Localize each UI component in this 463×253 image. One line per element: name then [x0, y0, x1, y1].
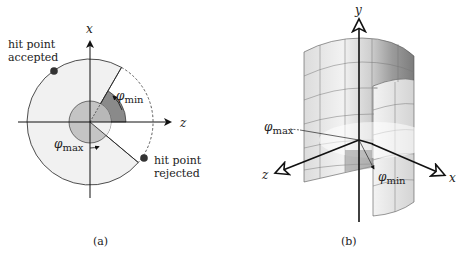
phi-min-label: φmin [116, 89, 144, 105]
caption-a: (a) [93, 235, 108, 248]
phi-plane-slice [319, 122, 431, 158]
diagram-canvas: x z φmin φmax hit pointaccepted hit poin… [0, 0, 463, 253]
rejected-label: hit pointrejected [154, 154, 202, 180]
x-axis-label: x [86, 22, 93, 36]
hit-point-rejected [140, 154, 148, 162]
hit-point-accepted [50, 67, 58, 75]
rejected-arc [122, 67, 154, 162]
phi-max-label-b: φmax [264, 120, 294, 136]
y-axis-label-b: y [354, 3, 362, 17]
figure-b: y z x φmax φmin (b) [261, 3, 456, 248]
x-axis-label-b: x [449, 171, 456, 185]
figure-a: x z φmin φmax hit pointaccepted hit poin… [8, 22, 202, 248]
accepted-label: hit pointaccepted [8, 38, 58, 64]
caption-b: (b) [341, 235, 357, 248]
z-axis-label: z [179, 116, 187, 130]
z-axis-label-b: z [261, 168, 269, 182]
